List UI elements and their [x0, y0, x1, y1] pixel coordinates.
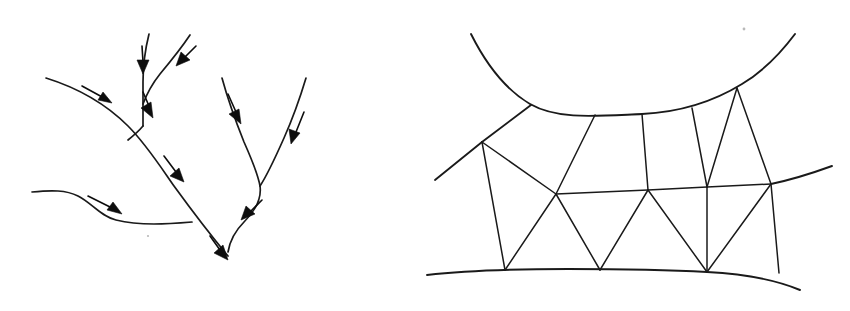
edge-left-node-to-center-left	[482, 142, 556, 194]
paper-speck-right	[743, 28, 746, 31]
finite-element-mesh-panel	[0, 0, 850, 311]
upper-left-boundary-ray	[435, 142, 482, 180]
edge-curve3-to-right-inner	[692, 108, 707, 187]
edge-middle-to-bottom-mid	[600, 190, 648, 270]
lower-boundary-curve	[427, 269, 800, 290]
edge-center-left-to-bottom-mid	[556, 194, 600, 270]
horizontal-middle-to-right-inner	[648, 187, 707, 190]
mesh-boundary-group	[427, 34, 832, 290]
edge-curve2-to-middle	[642, 114, 648, 190]
edge-middle-to-bottom-right	[648, 190, 707, 272]
mesh-interior-edge-group	[482, 88, 779, 273]
edge-center-left-to-bottom-left	[505, 194, 556, 270]
edge-curve1-to-center-left	[556, 115, 595, 194]
upper-left-boundary-ray-to-curve	[482, 105, 531, 142]
horizontal-center-left-to-middle	[556, 190, 648, 194]
horizontal-right-inner-to-right-node	[707, 184, 771, 187]
edge-apex-to-right-inner	[707, 88, 737, 187]
edge-left-node-to-bottom-left	[482, 142, 505, 270]
figure-root	[0, 0, 850, 311]
edge-apex-to-right-node	[737, 88, 771, 184]
edge-right-node-to-bottom-right	[707, 184, 771, 272]
upper-boundary-curve	[471, 34, 795, 116]
paper-speck-group-right	[743, 28, 746, 31]
right-boundary-ray	[771, 166, 832, 184]
edge-right-node-to-bottom-far-right	[771, 184, 779, 273]
